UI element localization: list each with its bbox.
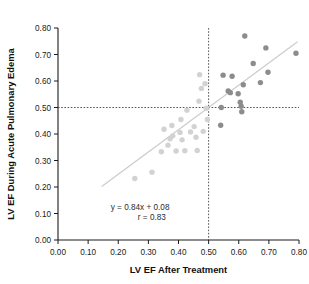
regression-line [102, 42, 298, 187]
data-point [239, 109, 244, 114]
data-point [251, 61, 256, 66]
data-point [132, 176, 137, 181]
x-tick-label: 0.40 [171, 248, 187, 257]
data-point [177, 130, 182, 135]
data-point [258, 80, 263, 85]
y-tick-label: 0.10 [35, 210, 51, 219]
scatter-plot-figure: 0.000.100.200.300.400.500.600.700.800.00… [0, 0, 309, 284]
data-point [161, 127, 166, 132]
data-point [265, 70, 270, 75]
y-tick-label: 0.00 [35, 236, 51, 245]
data-point [220, 72, 225, 77]
x-tick-label: 0.30 [140, 248, 156, 257]
x-tick-label: 0.60 [231, 248, 247, 257]
data-point [218, 123, 223, 128]
data-point [197, 72, 202, 77]
data-point [178, 117, 183, 122]
data-point [188, 129, 193, 134]
data-point [191, 124, 196, 129]
data-point [241, 82, 246, 87]
series-above-cutoff [218, 33, 299, 128]
y-tick-label: 0.50 [35, 104, 51, 113]
data-point [170, 133, 175, 138]
x-tick-label: 0.80 [291, 248, 307, 257]
x-tick-label: 0.00 [50, 248, 66, 257]
data-point [293, 50, 298, 55]
data-point [202, 81, 207, 86]
data-point [184, 107, 189, 112]
correlation-label: r = 0.83 [138, 213, 166, 222]
data-point [219, 105, 224, 110]
data-point [263, 45, 268, 50]
data-point [204, 106, 209, 111]
y-tick-label: 0.70 [35, 51, 51, 60]
data-point [235, 91, 240, 96]
data-point [238, 103, 243, 108]
data-point [199, 86, 204, 91]
y-tick-label: 0.30 [35, 157, 51, 166]
data-point [165, 142, 170, 147]
x-tick-label: 0.70 [261, 248, 277, 257]
y-tick-label: 0.40 [35, 130, 51, 139]
y-tick-label: 0.20 [35, 183, 51, 192]
regression-equation-label: y = 0.84x + 0.08 [111, 203, 170, 212]
data-point [242, 33, 247, 38]
data-point [173, 148, 178, 153]
data-point [149, 169, 154, 174]
data-point [193, 134, 198, 139]
data-point [228, 90, 233, 95]
x-tick-label: 0.20 [110, 248, 126, 257]
y-axis-title: LV EF During Acute Pulmonary Edema [5, 48, 16, 220]
x-tick-label: 0.10 [80, 248, 96, 257]
data-point [169, 123, 174, 128]
y-tick-label: 0.60 [35, 77, 51, 86]
data-point [229, 74, 234, 79]
x-axis-title: LV EF After Treatment [130, 264, 227, 275]
data-point [194, 148, 199, 153]
data-point [201, 129, 206, 134]
data-point [159, 149, 164, 154]
data-point [205, 117, 210, 122]
x-tick-label: 0.50 [201, 248, 217, 257]
series-below-cutoff [132, 72, 210, 181]
data-point [196, 98, 201, 103]
data-point [179, 137, 184, 142]
chart-canvas: 0.000.100.200.300.400.500.600.700.800.00… [0, 0, 309, 284]
data-point [182, 148, 187, 153]
y-tick-label: 0.80 [35, 24, 51, 33]
